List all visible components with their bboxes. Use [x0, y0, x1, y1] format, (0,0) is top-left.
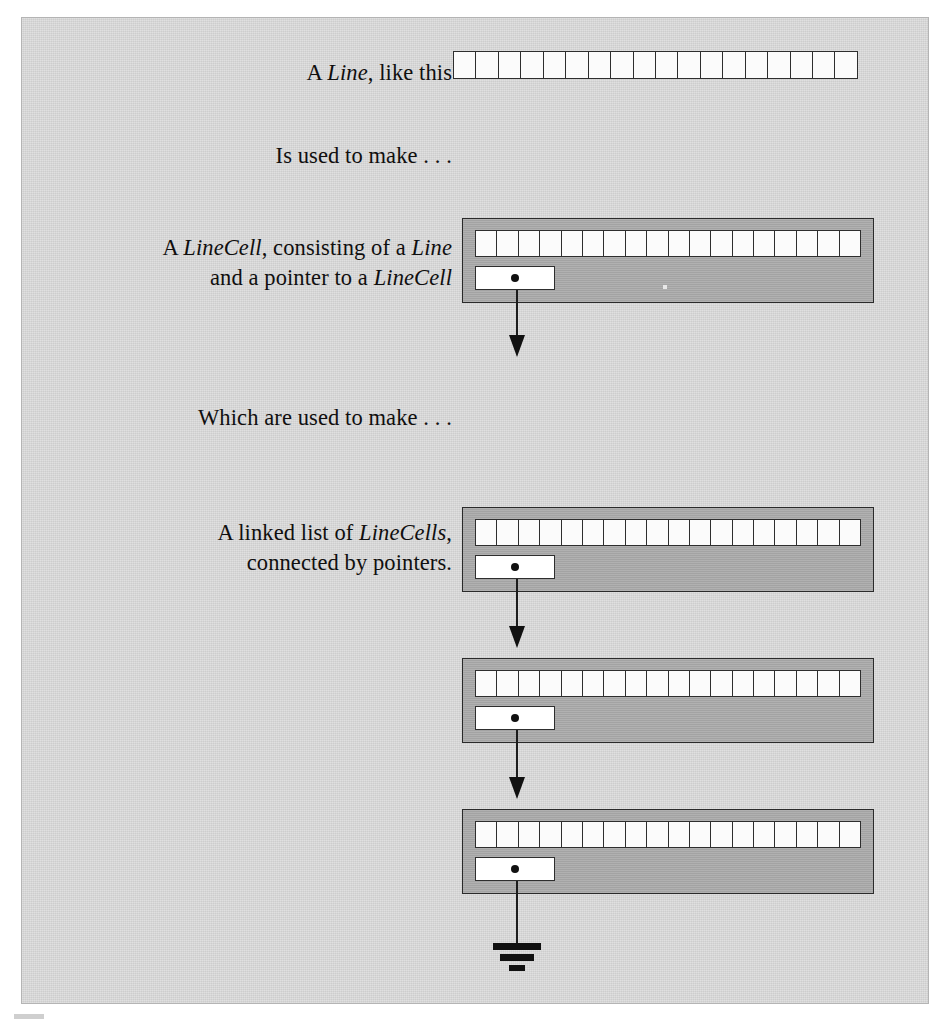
line-cell [754, 520, 775, 545]
line-cell [733, 822, 754, 847]
line-cell [775, 822, 796, 847]
line-cell [476, 822, 497, 847]
arrow-shaft [516, 578, 518, 628]
line-cell [818, 231, 839, 256]
line-field [475, 230, 861, 257]
line-cell [690, 671, 711, 696]
caption-text-run: Which are used to make . . . [198, 405, 452, 430]
pointer-arrow-example [516, 289, 518, 357]
line-field [475, 519, 861, 546]
line-cell [562, 671, 583, 696]
line-cell [797, 231, 818, 256]
line-cell [678, 52, 700, 78]
pointer-dot-icon [511, 865, 519, 873]
line-cell [669, 231, 690, 256]
line-cell [540, 822, 561, 847]
arrow-shaft [516, 880, 518, 946]
line-cell [775, 671, 796, 696]
ground-bar-1 [493, 943, 541, 950]
line-cell [476, 231, 497, 256]
caption-text-run: , [446, 520, 452, 545]
line-cell [775, 520, 796, 545]
pointer-field [475, 857, 555, 881]
line-cell [754, 231, 775, 256]
line-cell [669, 822, 690, 847]
caption-italic-term: Line [412, 235, 452, 260]
line-cell [476, 520, 497, 545]
arrow-shaft [516, 289, 518, 337]
pointer-arrow-node-1 [516, 578, 518, 648]
ground-bar-2 [500, 954, 534, 961]
caption-italic-term: LineCells [359, 520, 446, 545]
line-cell [669, 520, 690, 545]
line-cell [604, 671, 625, 696]
pointer-field [475, 706, 555, 730]
pointer-field [475, 555, 555, 579]
line-cell [690, 822, 711, 847]
line-cell [647, 671, 668, 696]
linecell-record-example [462, 218, 874, 303]
caption-which-are-used-to-make: Which are used to make . . . [82, 403, 452, 433]
pointer-arrow-terminator [516, 880, 518, 948]
arrow-shaft [516, 729, 518, 779]
scan-speck [663, 285, 667, 289]
line-strip-standalone [453, 51, 858, 79]
line-cell [611, 52, 633, 78]
line-cell [519, 231, 540, 256]
line-cell [583, 822, 604, 847]
line-cell [797, 520, 818, 545]
line-cell [647, 231, 668, 256]
linecell-record-node-3 [462, 809, 874, 894]
line-cell [733, 671, 754, 696]
line-cell [656, 52, 678, 78]
line-cell [754, 671, 775, 696]
line-cell [497, 231, 518, 256]
caption-linked-list-description: A linked list of LineCells,connected by … [52, 518, 452, 578]
line-cell [604, 231, 625, 256]
line-cell [497, 671, 518, 696]
line-cell [476, 671, 497, 696]
line-cell [626, 822, 647, 847]
line-cell [723, 52, 745, 78]
line-cell [690, 520, 711, 545]
line-cell [476, 52, 498, 78]
line-cell [791, 52, 813, 78]
pointer-arrow-node-2 [516, 729, 518, 799]
caption-a-line-like-this: A Line, like this [82, 58, 452, 88]
line-cell [544, 52, 566, 78]
caption-text-run: A [163, 235, 184, 260]
caption-text-run: connected by pointers. [247, 550, 452, 575]
line-cell [497, 822, 518, 847]
caption-text-run: and a pointer to a [210, 265, 374, 290]
line-cell [818, 822, 839, 847]
line-cell [647, 822, 668, 847]
pointer-dot-icon [511, 274, 519, 282]
line-cell [797, 671, 818, 696]
line-cell [669, 671, 690, 696]
line-cell [711, 520, 732, 545]
caption-text-run: A linked list of [217, 520, 359, 545]
line-cell [818, 520, 839, 545]
line-cell [754, 822, 775, 847]
null-ground-icon [493, 943, 541, 973]
line-cell [634, 52, 656, 78]
line-cell [701, 52, 723, 78]
ground-bar-3 [509, 965, 525, 971]
pointer-field [475, 266, 555, 290]
caption-linecell-description: A LineCell, consisting of a Lineand a po… [52, 233, 452, 293]
line-cell [604, 520, 625, 545]
pointer-dot-icon [511, 563, 519, 571]
line-cell [497, 520, 518, 545]
line-cell [626, 520, 647, 545]
line-cell [690, 231, 711, 256]
line-cell [813, 52, 835, 78]
caption-text-run: , consisting of a [262, 235, 412, 260]
line-cell [519, 822, 540, 847]
caption-italic-term: Line [327, 60, 367, 85]
line-cell [818, 671, 839, 696]
caption-text-run: , like this [368, 60, 452, 85]
arrow-head-icon [509, 626, 525, 648]
line-cell [840, 520, 860, 545]
line-cell [562, 520, 583, 545]
line-cell [499, 52, 521, 78]
